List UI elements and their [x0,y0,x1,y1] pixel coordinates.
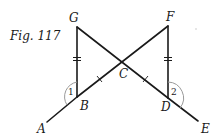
segment-ab [47,97,77,122]
point-label-e: E [200,122,210,135]
figure-caption: Fig. 117 [9,29,61,43]
stray-dot [195,28,196,29]
double-tick-marks [73,58,172,61]
geometry-figure: Fig. 117 1 2 G F C B D A E [0,0,218,135]
point-label-b: B [79,99,89,113]
angle-2-label: 2 [171,87,177,97]
point-label-g: G [69,11,79,25]
point-label-c: C [119,67,128,81]
angle-1-label: 1 [68,87,74,97]
point-label-a: A [36,122,46,135]
point-label-f: F [165,10,175,24]
point-label-d: D [160,100,171,114]
